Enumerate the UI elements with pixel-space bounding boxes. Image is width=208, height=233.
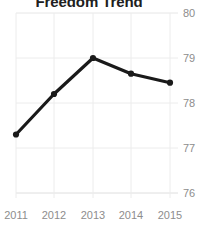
data-point-2015 <box>167 80 173 86</box>
y-tick-label-76: 76 <box>183 187 195 199</box>
x-tick-label-2012: 2012 <box>37 209 71 221</box>
x-tick-label-2014: 2014 <box>114 209 148 221</box>
y-tick-label-78: 78 <box>183 97 195 109</box>
x-tick-label-2015: 2015 <box>153 209 187 221</box>
vertical-gridlines <box>16 13 170 198</box>
horizontal-gridlines <box>16 13 178 193</box>
y-tick-label-80: 80 <box>183 7 195 19</box>
chart-screenshot: Freedom Trend 80 79 78 77 76 2011 2012 2… <box>0 0 208 233</box>
chart-title: Freedom Trend <box>0 0 178 10</box>
data-point-2012 <box>51 91 57 97</box>
y-tick-label-79: 79 <box>183 52 195 64</box>
data-point-2014 <box>128 71 134 77</box>
line-chart-svg <box>0 0 208 233</box>
data-point-2011 <box>13 131 19 137</box>
x-tick-label-2011: 2011 <box>0 209 33 221</box>
plot-area <box>0 0 208 233</box>
data-point-2013 <box>90 55 96 61</box>
x-tick-label-2013: 2013 <box>76 209 110 221</box>
y-tick-label-77: 77 <box>183 142 195 154</box>
